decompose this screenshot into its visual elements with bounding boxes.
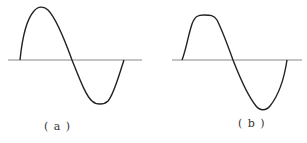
figure-a-caption: ( a ) bbox=[44, 120, 71, 133]
sine-wave-a bbox=[20, 7, 124, 104]
figure-b-caption: ( b ) bbox=[238, 117, 266, 130]
distorted-wave-b bbox=[182, 15, 287, 110]
figure-a bbox=[8, 7, 142, 104]
figure-b bbox=[172, 15, 302, 110]
